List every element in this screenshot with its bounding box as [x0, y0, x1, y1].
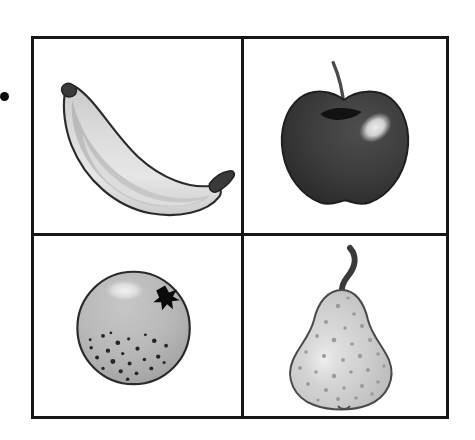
orange-highlight [104, 280, 145, 302]
grid-cell-apple[interactable] [244, 39, 446, 236]
pear-stem [342, 248, 355, 294]
banana-stem [209, 171, 234, 192]
pear-icon [244, 236, 446, 416]
pear-highlight [304, 334, 344, 386]
banana-tip-left [62, 83, 77, 97]
grid-cell-orange[interactable] [34, 236, 244, 416]
fruit-grid [31, 36, 449, 419]
apple-icon [244, 39, 446, 233]
banana-icon [34, 39, 241, 233]
orange-icon [34, 236, 241, 416]
bullet-marker-icon [0, 92, 9, 101]
grid-cell-banana[interactable] [34, 39, 244, 236]
grid-cell-pear[interactable] [244, 236, 446, 416]
image-canvas [0, 0, 475, 440]
